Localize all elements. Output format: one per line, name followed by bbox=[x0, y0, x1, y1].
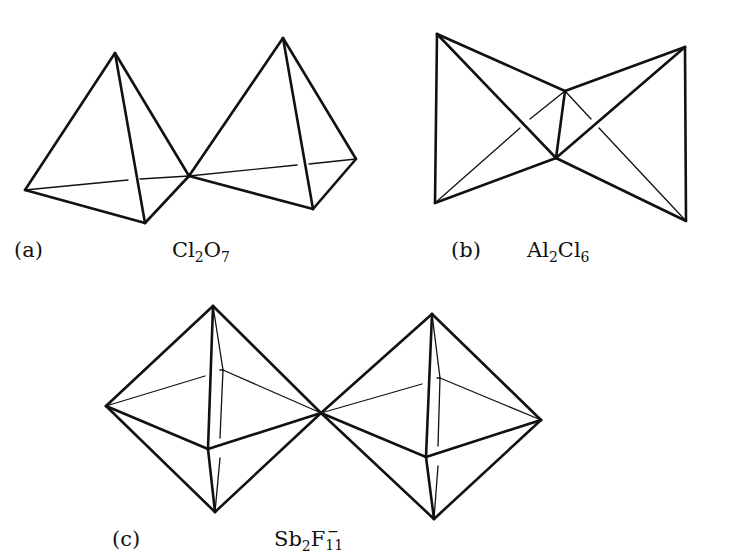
panel-a-tag: (a) bbox=[14, 240, 43, 261]
panel-b-tag: (b) bbox=[451, 240, 481, 261]
panel-a-left-tetrahedron bbox=[25, 53, 189, 223]
polyhedra-drawing bbox=[0, 0, 740, 556]
panel-c-tag: (c) bbox=[112, 529, 140, 550]
panel-c-formula: Sb2F−11 bbox=[274, 529, 341, 550]
polyhedra-figure: (a) Cl2O7 (b) Al2Cl6 (c) Sb2F−11 bbox=[0, 0, 740, 556]
panel-b-formula: Al2Cl6 bbox=[527, 240, 590, 261]
panel-b-right-tetrahedron bbox=[556, 47, 686, 221]
panel-c-left-octahedron bbox=[106, 306, 321, 512]
panel-b-left-tetrahedron bbox=[435, 34, 565, 203]
panel-c-right-octahedron bbox=[321, 314, 541, 519]
panel-b-shared-edge bbox=[556, 91, 565, 158]
panel-a-right-tetrahedron bbox=[189, 38, 356, 209]
panel-a-formula: Cl2O7 bbox=[172, 240, 230, 261]
